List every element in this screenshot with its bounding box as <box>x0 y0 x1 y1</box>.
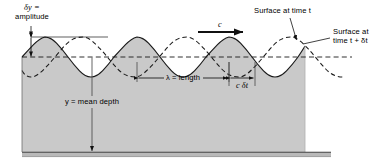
wavelength-label: λ = length <box>151 73 215 82</box>
bed-band <box>22 153 331 157</box>
shift-label: c δt <box>227 81 257 90</box>
surface-at-time-t-plus-dt-label: Surface at time t + δt <box>333 27 369 46</box>
wave-diagram-figure: δy = amplitude Surface at time t Surface… <box>0 0 381 167</box>
surface-at-time-t-label: Surface at time t <box>254 6 311 15</box>
mean-depth-label: y = mean depth <box>51 97 133 106</box>
amplitude-symbol: δy = <box>24 3 40 12</box>
surface-tdt-line1: Surface at <box>333 27 369 36</box>
amplitude-label: δy = amplitude <box>2 3 62 22</box>
surface-t-leader-line <box>290 18 297 40</box>
surface-tdt-line2: time t + δt <box>333 36 369 45</box>
wave-diagram-canvas <box>0 0 381 167</box>
surface-tdt-leader-line <box>303 38 330 44</box>
water-body <box>22 37 305 152</box>
wave-speed-label: c <box>218 20 222 29</box>
amplitude-text: amplitude <box>15 12 49 21</box>
